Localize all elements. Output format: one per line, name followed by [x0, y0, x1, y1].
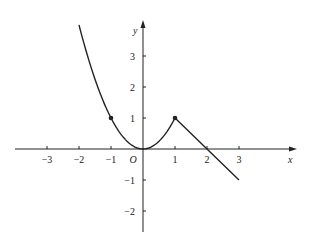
x-tick-label: −1: [106, 154, 117, 165]
x-axis-label: x: [287, 154, 293, 165]
marked-point: [173, 116, 178, 121]
marked-point: [109, 116, 114, 121]
origin-label: O: [129, 154, 136, 165]
x-axis-arrow-icon: [289, 147, 297, 152]
x-tick-label: −2: [74, 154, 85, 165]
x-tick-label: −3: [42, 154, 53, 165]
axis-labels: xyO: [129, 25, 293, 165]
y-tick-label: −1: [124, 175, 135, 186]
y-tick-label: 3: [130, 51, 135, 62]
y-axis-label: y: [132, 25, 138, 36]
x-tick-label: 1: [173, 154, 178, 165]
axes: [15, 20, 297, 232]
function-graph: −3−2−1123321−1−2 xyO: [0, 0, 312, 250]
y-axis-arrow-icon: [141, 20, 146, 28]
x-tick-label: 3: [237, 154, 242, 165]
y-tick-label: 2: [130, 82, 135, 93]
y-tick-label: 1: [130, 113, 135, 124]
plot-curves: [79, 25, 239, 180]
x-tick-label: 2: [205, 154, 210, 165]
axis-ticks: −3−2−1123321−1−2: [42, 51, 242, 217]
y-tick-label: −2: [124, 206, 135, 217]
parabola-curve: [79, 25, 175, 149]
